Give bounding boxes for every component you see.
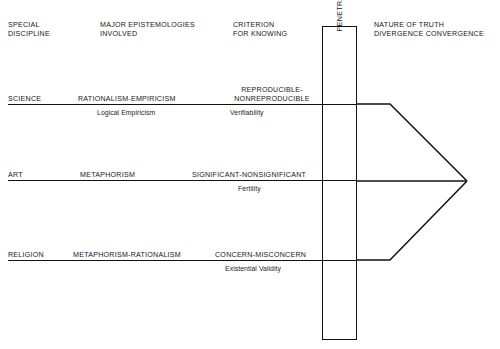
row-rule-art [8, 180, 357, 181]
row-sub-criterion-religion: Existential Validity [225, 264, 281, 273]
penetrable-barrier-box [322, 26, 357, 340]
row-label-science: SCIENCE [8, 95, 41, 104]
row-criterion-science: REPRODUCIBLE-NONREPRODUCIBLE [227, 86, 317, 104]
header-major-epistemologies: MAJOR EPISTEMOLOGIESINVOLVED [100, 21, 195, 39]
header-major-epistemologies-line1: MAJOR EPISTEMOLOGIES [100, 21, 195, 29]
convergence-line-science [357, 104, 467, 181]
row-label-religion: RELIGION [8, 251, 44, 260]
header-criterion-for-knowing: CRITERIONFOR KNOWING [233, 21, 287, 39]
header-nature-of-truth-line1: NATURE OF TRUTH [374, 21, 444, 29]
row-criterion-art: SIGNIFICANT-NONSIGNIFICANT [192, 171, 306, 180]
row-epistemology-religion: METAPHORISM-RATIONALISM [73, 251, 181, 260]
row-sub-criterion-art: Fertility [238, 184, 261, 193]
row-label-art: ART [8, 171, 23, 180]
header-criterion-for-knowing-line1: CRITERION [233, 21, 274, 29]
convergence-line-religion [357, 181, 467, 260]
header-nature-of-truth-line2: DIVERGENCE CONVERGENCE [374, 30, 484, 38]
diagram-canvas: SPECIALDISCIPLINE MAJOR EPISTEMOLOGIESIN… [0, 0, 500, 349]
header-major-epistemologies-line2: INVOLVED [100, 30, 137, 38]
header-nature-of-truth: NATURE OF TRUTHDIVERGENCE CONVERGENCE [374, 21, 484, 39]
row-epistemology-science: RATIONALISM-EMPIRICISM [78, 95, 176, 104]
header-special-discipline: SPECIALDISCIPLINE [8, 21, 50, 39]
row-rule-science [8, 104, 357, 105]
row-criterion-religion: CONCERN-MISCONCERN [215, 251, 306, 260]
row-sub-epistemology-science: Logical Empiricism [97, 108, 155, 117]
row-criterion-science-line1: REPRODUCIBLE- [241, 86, 303, 94]
header-special-discipline-line1: SPECIAL [8, 21, 40, 29]
row-rule-religion [8, 260, 357, 261]
header-special-discipline-line2: DISCIPLINE [8, 30, 50, 38]
row-epistemology-art: METAPHORISM [80, 171, 135, 180]
row-criterion-science-line2: NONREPRODUCIBLE [234, 95, 310, 103]
row-sub-criterion-science: Verifiability [230, 108, 264, 117]
header-criterion-for-knowing-line2: FOR KNOWING [233, 30, 287, 38]
